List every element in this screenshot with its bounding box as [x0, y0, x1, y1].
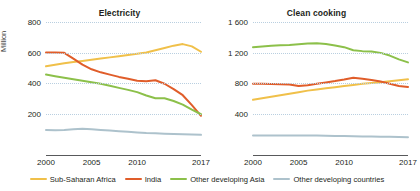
legend-swatch [125, 178, 142, 180]
gridline [46, 53, 201, 54]
y-axis-label: Million [0, 31, 8, 52]
legend-swatch [30, 178, 47, 180]
x-axis-tick-label: 2000 [244, 158, 262, 167]
y-axis-tick-label: 400 [28, 79, 41, 88]
x-axis-tick-label: 2005 [290, 158, 308, 167]
y-axis-tick-label: 800 [235, 79, 248, 88]
legend-label: Other developing Asia [190, 175, 264, 184]
x-axis-tick-label: 2017 [399, 158, 417, 167]
y-axis-tick-label: 400 [235, 109, 248, 118]
x-axis-tick-label: 2000 [37, 158, 55, 167]
legend-swatch [170, 178, 187, 180]
y-axis-tick-label: 1 600 [228, 18, 248, 27]
y-axis-tick-label: 1 200 [228, 48, 248, 57]
x-axis-line [46, 155, 201, 156]
legend-item[interactable]: Other developing countries [273, 175, 384, 184]
y-axis-tick-label: 800 [28, 18, 41, 27]
gridline [46, 83, 201, 84]
gridline [253, 53, 408, 54]
x-axis-tick-label: 2010 [335, 158, 353, 167]
chart-title-clean-cooking: Clean cooking [213, 8, 420, 18]
series-line [253, 136, 408, 138]
series-line [46, 75, 201, 115]
x-axis-tick-label: 2010 [128, 158, 146, 167]
legend-label: India [145, 175, 161, 184]
x-axis-tick-label: 2005 [83, 158, 101, 167]
chart-legend: Sub-Saharan AfricaIndiaOther developing … [0, 169, 414, 189]
gridline [46, 114, 201, 115]
legend-label: Sub-Saharan Africa [50, 175, 116, 184]
plot-area-clean-cooking: 4008001 2001 6002000200520102017 [253, 22, 408, 144]
legend-item[interactable]: Other developing Asia [170, 175, 264, 184]
y-axis-tick-label: 600 [28, 48, 41, 57]
x-axis-line [253, 155, 408, 156]
plot-area-electricity: 2004006008002000200520102017 [46, 22, 201, 144]
chart-panel-clean-cooking: Clean cooking 4008001 2001 6002000200520… [207, 0, 414, 165]
chart-title-electricity: Electricity [16, 8, 223, 18]
legend-item[interactable]: Sub-Saharan Africa [30, 175, 116, 184]
gridline [253, 114, 408, 115]
chart-panel-electricity: Electricity Million 20040060080020002005… [0, 0, 207, 165]
gridline [253, 22, 408, 23]
series-line [46, 129, 201, 135]
legend-swatch [273, 178, 290, 180]
legend-item[interactable]: India [125, 175, 161, 184]
gridline [46, 22, 201, 23]
gridline [253, 83, 408, 84]
legend-label: Other developing countries [293, 175, 384, 184]
y-axis-tick-label: 200 [28, 109, 41, 118]
